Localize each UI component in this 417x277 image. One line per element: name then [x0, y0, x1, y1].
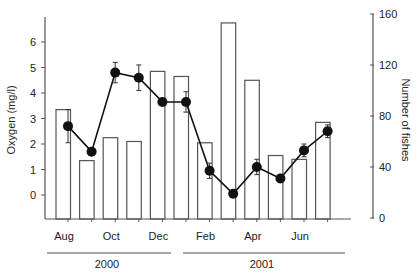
x-tick-label: Aug	[54, 230, 74, 242]
right-tick-label: 120	[379, 59, 397, 71]
year-label: 2001	[250, 258, 274, 270]
right-tick-label: 40	[379, 161, 391, 173]
right-tick-label: 160	[379, 8, 397, 20]
oxygen-point	[228, 189, 238, 199]
fish-bar	[198, 143, 213, 219]
left-tick-label: 2	[30, 138, 36, 150]
left-tick-label: 5	[30, 62, 36, 74]
fish-bar	[292, 159, 307, 219]
right-tick-label: 0	[379, 212, 385, 224]
chart: 012345604080120160AugOctDecFebAprJun2000…	[0, 0, 417, 277]
fish-bar	[103, 138, 118, 219]
left-tick-label: 1	[30, 164, 36, 176]
fish-bar	[245, 80, 259, 219]
left-tick-label: 4	[30, 87, 36, 99]
left-tick-label: 6	[30, 36, 36, 48]
left-tick-label: 0	[30, 189, 36, 201]
oxygen-point	[323, 126, 333, 136]
fish-bar	[268, 156, 283, 219]
x-tick-label: Apr	[244, 230, 261, 242]
right-tick-label: 80	[379, 110, 391, 122]
x-tick-label: Jun	[291, 230, 309, 242]
oxygen-point	[299, 145, 309, 155]
oxygen-point	[205, 166, 215, 176]
oxygen-point	[87, 147, 97, 157]
oxygen-point	[181, 97, 191, 107]
oxygen-point	[252, 162, 262, 172]
x-tick-label: Dec	[149, 230, 169, 242]
left-tick-label: 3	[30, 113, 36, 125]
fish-bar	[127, 142, 142, 220]
left-axis-title: Oxygen (mg/l)	[5, 85, 17, 154]
right-axis-title: Number of fishes	[400, 78, 412, 162]
fish-bar	[150, 71, 165, 219]
x-tick-label: Feb	[196, 230, 215, 242]
fish-bar	[80, 161, 95, 219]
year-label: 2000	[95, 258, 119, 270]
oxygen-point	[157, 97, 167, 107]
x-tick-label: Oct	[103, 230, 120, 242]
oxygen-point	[134, 73, 144, 83]
oxygen-point	[110, 68, 120, 78]
oxygen-point	[63, 121, 73, 131]
oxygen-point	[275, 173, 285, 183]
